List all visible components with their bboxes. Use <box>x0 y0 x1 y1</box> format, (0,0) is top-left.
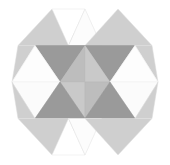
triangle-group <box>12 9 158 155</box>
tessellation-figure <box>0 0 170 165</box>
pattern-canvas <box>0 0 170 165</box>
